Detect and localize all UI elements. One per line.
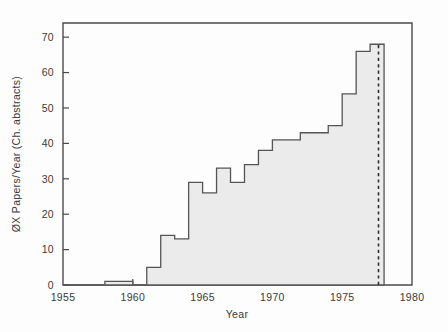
y-tick-label-30: 30 bbox=[42, 173, 54, 185]
x-tick-label-1965: 1965 bbox=[190, 291, 215, 303]
y-tick-label-0: 0 bbox=[48, 279, 54, 291]
chart-figure: 010203040506070 195519601965197019751980… bbox=[0, 0, 448, 332]
y-axis-tick-labels: 010203040506070 bbox=[42, 31, 54, 291]
x-tick-label-1975: 1975 bbox=[330, 291, 355, 303]
y-axis-title: ØX Papers/Year (Ch. abstracts) bbox=[10, 76, 22, 232]
x-tick-label-1970: 1970 bbox=[260, 291, 285, 303]
y-tick-label-70: 70 bbox=[42, 31, 54, 43]
y-tick-label-50: 50 bbox=[42, 102, 54, 114]
y-tick-label-10: 10 bbox=[42, 243, 54, 255]
x-tick-label-1955: 1955 bbox=[51, 291, 76, 303]
y-tick-label-40: 40 bbox=[42, 137, 54, 149]
y-tick-label-60: 60 bbox=[42, 66, 54, 78]
y-axis-ticks bbox=[63, 37, 69, 285]
x-axis-title: Year bbox=[226, 308, 249, 320]
x-axis-tick-labels: 195519601965197019751980 bbox=[51, 291, 425, 303]
step-histogram-plot: 010203040506070 195519601965197019751980… bbox=[0, 0, 448, 332]
step-area-series bbox=[63, 44, 384, 285]
x-tick-label-1960: 1960 bbox=[121, 291, 146, 303]
y-tick-label-20: 20 bbox=[42, 208, 54, 220]
x-tick-label-1980: 1980 bbox=[400, 291, 425, 303]
